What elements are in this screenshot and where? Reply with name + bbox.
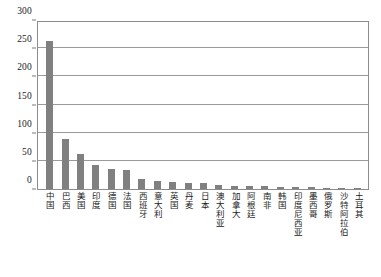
- y-axis-tick-label: 0: [27, 175, 32, 185]
- bar: [46, 41, 53, 189]
- bar: [277, 187, 284, 189]
- y-axis-tick-mark: [32, 160, 36, 161]
- x-axis-tick-label: 巴西: [60, 192, 69, 210]
- bar: [108, 169, 115, 189]
- x-axis-label-slot: 阿根廷: [242, 191, 257, 277]
- bar: [200, 183, 207, 189]
- x-axis-label-slot: 印度尼西亚: [289, 191, 304, 277]
- x-axis-label-slot: 法国: [118, 191, 133, 277]
- y-axis-tick-label: 200: [17, 62, 32, 72]
- bar-slot: [104, 22, 119, 189]
- bar-slot: [150, 22, 165, 189]
- bar: [323, 188, 330, 189]
- bar-slot: [73, 22, 88, 189]
- x-axis-tick-label: 土耳其: [354, 192, 363, 219]
- x-axis-label-slot: 英国: [165, 191, 180, 277]
- bar: [292, 187, 299, 189]
- bar-slot: [303, 22, 318, 189]
- x-axis-tick-label: 法国: [122, 192, 131, 210]
- x-axis-label-slot: 意大利: [149, 191, 164, 277]
- bar-slot: [119, 22, 134, 189]
- bar: [215, 185, 222, 189]
- bar-slot: [165, 22, 180, 189]
- y-axis-tick-mark: [32, 189, 36, 190]
- bar: [185, 183, 192, 189]
- x-axis-tick-label: 西班牙: [137, 192, 146, 219]
- x-axis-label-slot: 西班牙: [134, 191, 149, 277]
- bar: [231, 186, 238, 189]
- x-axis-label-slot: 墨西哥: [304, 191, 319, 277]
- x-axis-label-slot: 美国: [72, 191, 87, 277]
- bar: [308, 187, 315, 189]
- bar: [77, 154, 84, 189]
- x-axis-tick-label: 英国: [168, 192, 177, 210]
- bar-slot: [273, 22, 288, 189]
- y-axis-tick-label: 150: [17, 91, 32, 101]
- x-axis-tick-label: 加拿大: [230, 192, 239, 219]
- x-axis-label-slot: 俄罗斯: [319, 191, 334, 277]
- x-axis-tick-label: 印度: [91, 192, 100, 210]
- x-axis-tick-label: 印度尼西亚: [292, 192, 301, 237]
- x-axis-label-slot: 巴西: [56, 191, 71, 277]
- y-axis-tick-mark: [32, 76, 36, 77]
- x-axis-labels: 中国巴西美国印度德国法国西班牙意大利英国丹麦日本澳大利亚加拿大阿根廷南非韩国印度…: [37, 191, 369, 277]
- y-axis: 050100150200250300: [0, 21, 36, 190]
- bar-slot: [227, 22, 242, 189]
- bar: [92, 165, 99, 189]
- y-axis-tick-label: 100: [17, 119, 32, 129]
- x-axis-tick-label: 南非: [261, 192, 270, 210]
- x-axis-tick-label: 俄罗斯: [323, 192, 332, 219]
- x-axis-label-slot: 德国: [103, 191, 118, 277]
- plot-area: [37, 21, 369, 190]
- x-axis-label-slot: 日本: [196, 191, 211, 277]
- x-axis-tick-label: 意大利: [153, 192, 162, 219]
- x-axis-label-slot: 中国: [41, 191, 56, 277]
- bar-chart: 050100150200250300 中国巴西美国印度德国法国西班牙意大利英国丹…: [0, 0, 381, 277]
- y-axis-tick-label: 50: [22, 147, 32, 157]
- bar-slot: [196, 22, 211, 189]
- x-axis-tick-label: 墨西哥: [307, 192, 316, 219]
- bars-layer: [38, 22, 368, 189]
- x-axis-label-slot: 丹麦: [180, 191, 195, 277]
- bar-slot: [350, 22, 365, 189]
- x-axis-tick-label: 德国: [106, 192, 115, 210]
- x-axis-label-slot: 印度: [87, 191, 102, 277]
- x-axis-label-slot: 韩国: [273, 191, 288, 277]
- bar: [138, 179, 145, 189]
- x-axis-label-slot: 土耳其: [350, 191, 365, 277]
- bar-slot: [334, 22, 349, 189]
- bar: [261, 186, 268, 189]
- bar-slot: [288, 22, 303, 189]
- x-axis-tick-label: 日本: [199, 192, 208, 210]
- x-axis-tick-label: 韩国: [276, 192, 285, 210]
- bar: [246, 186, 253, 189]
- y-axis-tick-label: 250: [17, 34, 32, 44]
- bar: [354, 188, 361, 189]
- x-axis-label-slot: 沙特阿拉伯: [335, 191, 350, 277]
- bar: [338, 188, 345, 189]
- bar: [154, 181, 161, 189]
- y-axis-tick-label: 300: [17, 6, 32, 16]
- bar-slot: [134, 22, 149, 189]
- bar-slot: [257, 22, 272, 189]
- bar-slot: [57, 22, 72, 189]
- bar-slot: [180, 22, 195, 189]
- bar: [169, 182, 176, 189]
- y-axis-tick-mark: [32, 20, 36, 21]
- x-axis-label-slot: 加拿大: [227, 191, 242, 277]
- bar: [123, 170, 130, 189]
- y-axis-tick-mark: [32, 104, 36, 105]
- bar-slot: [42, 22, 57, 189]
- y-axis-tick-mark: [32, 132, 36, 133]
- x-axis-label-slot: 南非: [258, 191, 273, 277]
- bar-slot: [319, 22, 334, 189]
- x-axis-tick-label: 澳大利亚: [215, 192, 224, 228]
- bar-slot: [242, 22, 257, 189]
- bar-slot: [88, 22, 103, 189]
- x-axis-tick-label: 丹麦: [184, 192, 193, 210]
- x-axis-tick-label: 中国: [44, 192, 53, 210]
- bar-slot: [211, 22, 226, 189]
- bar: [62, 139, 69, 189]
- x-axis-tick-label: 阿根廷: [246, 192, 255, 219]
- y-axis-tick-mark: [32, 48, 36, 49]
